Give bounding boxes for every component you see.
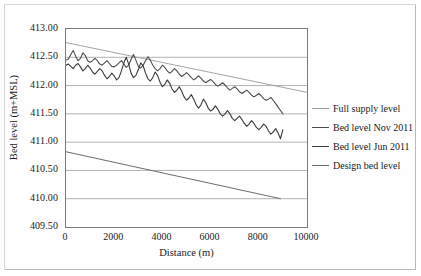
y-tick-label: 410.50 — [30, 164, 58, 174]
x-tick-label: 2000 — [103, 231, 123, 242]
legend-line-swatch — [312, 127, 329, 128]
x-tick-label: 10000 — [294, 231, 319, 242]
series-line-2 — [66, 57, 283, 138]
legend-line-swatch — [312, 146, 329, 147]
y-tick-label: 412.50 — [30, 51, 58, 61]
series-layer — [66, 43, 307, 199]
x-tick-label: 8000 — [248, 231, 268, 242]
plot-area — [65, 28, 308, 228]
y-tick-label: 411.00 — [30, 136, 58, 146]
plot-svg — [66, 29, 307, 227]
legend-item-label: Bed level Jun 2011 — [333, 141, 410, 152]
series-line-3 — [66, 152, 280, 199]
series-line-1 — [66, 51, 283, 114]
gridlines — [66, 57, 307, 198]
y-tick-label: 412.00 — [30, 80, 58, 90]
chart-figure: Bed level (m+MSL) 409.50410.00410.50411.… — [0, 0, 421, 276]
legend-item-label: Full supply level — [333, 103, 400, 114]
y-tick-label: 410.00 — [30, 193, 58, 203]
x-tick-label: 0 — [63, 231, 68, 242]
legend-item-label: Bed level Nov 2011 — [333, 122, 413, 133]
x-tick-label: 4000 — [151, 231, 171, 242]
legend-item[interactable]: Design bed level — [312, 156, 418, 175]
legend-item[interactable]: Bed level Jun 2011 — [312, 137, 418, 156]
y-tick-label: 413.00 — [30, 23, 58, 33]
x-axis-ticks: 0200040006000800010000 — [0, 231, 421, 247]
chart-legend: Full supply levelBed level Nov 2011Bed l… — [312, 99, 418, 175]
legend-item[interactable]: Bed level Nov 2011 — [312, 118, 418, 137]
x-axis-title: Distance (m) — [65, 247, 308, 258]
series-line-0 — [66, 43, 307, 93]
y-tick-label: 409.50 — [30, 221, 58, 231]
y-tick-label: 411.50 — [30, 108, 58, 118]
legend-line-swatch — [312, 108, 329, 109]
x-tick-label: 6000 — [200, 231, 220, 242]
legend-item[interactable]: Full supply level — [312, 99, 418, 118]
y-axis-title: Bed level (m+MSL) — [8, 43, 19, 193]
legend-line-swatch — [312, 165, 329, 166]
legend-item-label: Design bed level — [333, 160, 400, 171]
